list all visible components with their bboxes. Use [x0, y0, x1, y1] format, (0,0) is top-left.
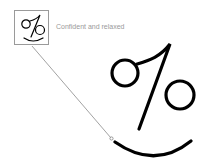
smile-arc — [115, 141, 191, 156]
percent-slash — [137, 44, 170, 129]
callout-label: Confident and relaxed — [56, 23, 125, 30]
leader-line — [32, 46, 111, 138]
right-eye-circle — [166, 81, 194, 109]
thumbnail-preview[interactable] — [14, 10, 49, 45]
left-eye-circle — [112, 60, 138, 86]
percent-smiley-icon — [15, 11, 50, 46]
leader-anchor[interactable] — [110, 137, 113, 140]
percent-smiley-icon[interactable] — [112, 44, 194, 156]
